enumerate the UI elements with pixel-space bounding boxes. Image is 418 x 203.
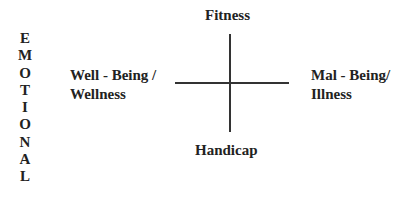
letter: N: [14, 134, 36, 151]
axis-label-bottom-handicap: Handicap: [195, 141, 258, 160]
axis-label-right-malbeing: Mal - Being/ Illness: [311, 66, 390, 104]
letter: E: [14, 30, 36, 47]
letter: T: [14, 82, 36, 99]
letter: I: [14, 99, 36, 116]
left-label-line1: Well - Being /: [70, 66, 156, 85]
letter: M: [14, 47, 36, 64]
letter: L: [14, 168, 36, 185]
left-label-line2: Wellness: [70, 85, 156, 104]
letter: O: [14, 116, 36, 133]
emotional-vertical-label: E M O T I O N A L: [14, 30, 36, 186]
right-label-line1: Mal - Being/: [311, 66, 390, 85]
horizontal-axis-line: [175, 82, 289, 84]
axis-label-left-wellbeing: Well - Being / Wellness: [70, 66, 156, 104]
letter: O: [14, 65, 36, 82]
right-label-line2: Illness: [311, 85, 390, 104]
letter: A: [14, 151, 36, 168]
axis-label-top-fitness: Fitness: [205, 6, 250, 25]
vertical-axis-line: [229, 34, 231, 132]
